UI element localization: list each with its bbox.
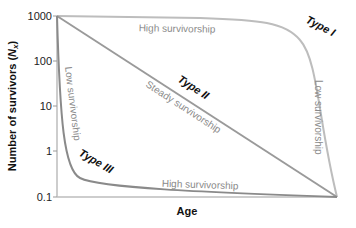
y-tick-label: 1000 bbox=[28, 10, 52, 22]
y-ticks: 1000 100 10 1 0.1 bbox=[28, 10, 57, 203]
survivorship-chart: 1000 100 10 1 0.1 Number of survivors (N… bbox=[0, 0, 356, 228]
type-iii-label: Type III bbox=[77, 146, 116, 176]
y-tick-label: 1 bbox=[46, 145, 52, 157]
y-tick-label: 100 bbox=[34, 55, 52, 67]
y-tick-label: 0.1 bbox=[37, 191, 52, 203]
y-tick-label: 10 bbox=[40, 100, 52, 112]
type-ii-line bbox=[57, 16, 337, 197]
type-iii-low-survivorship: Low survivorship bbox=[63, 66, 83, 142]
type-i-high-survivorship: High survivorship bbox=[139, 22, 216, 34]
x-axis-title: Age bbox=[177, 205, 198, 217]
y-axis-title: Number of survivors (Nx) bbox=[6, 40, 20, 171]
type-i-label: Type I bbox=[304, 13, 338, 39]
type-i-low-survivorship: Low survivorship bbox=[313, 80, 324, 155]
